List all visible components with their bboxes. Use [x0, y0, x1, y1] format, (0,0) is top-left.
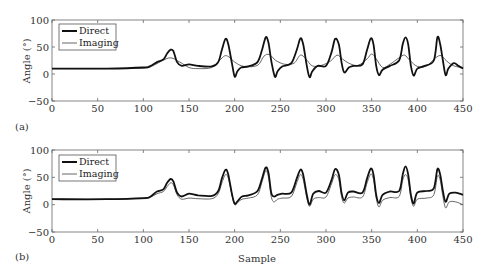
y-tick-label: 50	[36, 172, 49, 183]
legend-a: Direct Imaging	[59, 24, 119, 50]
panel-label-b: (b)	[15, 251, 29, 262]
panel-a: 050100150200250300350400450−50050100 Dir…	[15, 15, 473, 133]
x-tick-label: 100	[134, 234, 153, 245]
x-tick-label: 450	[453, 234, 472, 245]
panel-b: 050100150200250300350400450−50050100 Dir…	[15, 145, 473, 265]
y-tick-label: 50	[36, 42, 49, 53]
x-tick-label: 350	[362, 103, 381, 114]
x-tick-label: 150	[179, 234, 198, 245]
x-tick-label: 400	[408, 103, 427, 114]
x-tick-label: 250	[271, 103, 290, 114]
x-tick-label: 350	[362, 234, 381, 245]
y-axis-label-b: Angle (°)	[21, 168, 32, 214]
x-tick-label: 0	[49, 103, 55, 114]
x-tick-label: 200	[225, 103, 244, 114]
x-tick-label: 300	[316, 103, 335, 114]
x-axis-label: Sample	[238, 253, 276, 264]
x-tick-label: 150	[179, 103, 198, 114]
y-tick-label: 0	[43, 199, 49, 210]
y-axis-label-a: Angle (°)	[21, 38, 32, 84]
figure: 050100150200250300350400450−50050100 Dir…	[0, 0, 489, 275]
y-tick-label: 100	[30, 145, 49, 156]
x-tick-label: 0	[49, 234, 55, 245]
legend-direct-label: Direct	[79, 156, 109, 167]
legend-b: Direct Imaging	[59, 155, 119, 181]
y-tick-label: 0	[43, 69, 49, 80]
x-tick-label: 400	[408, 234, 427, 245]
x-tick-label: 50	[91, 103, 104, 114]
x-tick-label: 50	[91, 234, 104, 245]
x-tick-label: 450	[453, 103, 472, 114]
y-tick-label: 100	[30, 15, 49, 26]
x-tick-label: 300	[316, 234, 335, 245]
legend-imaging-label: Imaging	[79, 37, 119, 48]
legend-imaging-label: Imaging	[79, 168, 119, 179]
panel-label-a: (a)	[15, 121, 29, 132]
legend-direct-label: Direct	[79, 25, 109, 36]
x-tick-label: 100	[134, 103, 153, 114]
x-tick-label: 250	[271, 234, 290, 245]
y-tick-label: −50	[28, 96, 49, 107]
y-tick-label: −50	[28, 227, 49, 238]
x-tick-label: 200	[225, 234, 244, 245]
